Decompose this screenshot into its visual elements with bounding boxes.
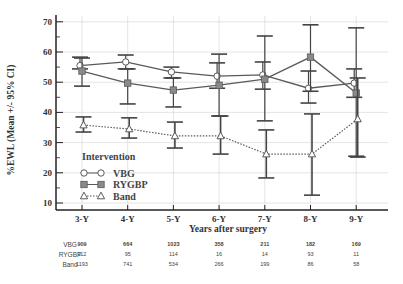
legend-item-rygbp: RYGBP xyxy=(113,179,148,190)
triangle-marker-icon xyxy=(80,192,87,199)
table-cell: 909 xyxy=(67,241,97,247)
x-tick-label: 5-Y xyxy=(166,214,180,224)
table-cell: 664 xyxy=(113,241,143,247)
y-tick-label: 60 xyxy=(43,47,53,57)
ewl-chart: 102030405060703-Y4-Y5-Y6-Y7-Y8-Y9-Y %EWL… xyxy=(0,0,403,240)
table-cell: 534 xyxy=(158,261,188,267)
triangle-marker-icon xyxy=(354,115,361,122)
circle-marker-icon xyxy=(98,170,104,176)
table-cell: 741 xyxy=(113,261,143,267)
y-tick-label: 10 xyxy=(43,198,53,208)
x-tick-label: 8-Y xyxy=(304,214,318,224)
x-tick-label: 7-Y xyxy=(258,214,272,224)
x-axis-title: Years after surgery xyxy=(189,224,267,234)
y-tick-label: 30 xyxy=(43,138,53,148)
square-marker-icon xyxy=(262,76,268,82)
gridlines xyxy=(56,16,388,210)
y-tick-label: 50 xyxy=(43,77,53,87)
table-cell: 86 xyxy=(296,261,326,267)
x-tick-label: 3-Y xyxy=(75,214,89,224)
square-marker-icon xyxy=(125,80,131,86)
axes: 102030405060703-Y4-Y5-Y6-Y7-Y8-Y9-Y xyxy=(43,15,388,224)
square-marker-icon xyxy=(307,54,313,60)
square-marker-icon xyxy=(216,82,222,88)
square-marker-icon xyxy=(79,68,85,74)
square-marker-icon xyxy=(81,181,87,187)
y-tick-label: 40 xyxy=(43,107,53,117)
y-axis-title: %EWL (Mean +/- 95% CI) xyxy=(6,65,17,176)
square-marker-icon xyxy=(170,87,176,93)
circle-marker-icon xyxy=(168,69,174,75)
table-cell: 358 xyxy=(204,241,234,247)
legend-title: Intervention xyxy=(82,151,136,162)
legend-item-vbg: VBG xyxy=(113,168,135,179)
x-tick-label: 4-Y xyxy=(121,214,135,224)
table-cell: 182 xyxy=(296,241,326,247)
legend-item-band: Band xyxy=(113,191,136,202)
x-tick-label: 6-Y xyxy=(212,214,226,224)
table-cell: 266 xyxy=(204,261,234,267)
square-marker-icon xyxy=(98,181,104,187)
table-cell: 11 xyxy=(341,251,371,257)
triangle-marker-icon xyxy=(308,150,315,157)
triangle-marker-icon xyxy=(97,192,104,199)
table-cell: 58 xyxy=(341,261,371,267)
table-cell: 95 xyxy=(113,251,143,257)
table-cell: 1023 xyxy=(158,241,188,247)
circle-marker-icon xyxy=(123,59,129,65)
table-cell: 112 xyxy=(67,251,97,257)
circle-marker-icon xyxy=(81,170,87,176)
y-tick-label: 70 xyxy=(43,17,53,27)
table-cell: 114 xyxy=(158,251,188,257)
triangle-marker-icon xyxy=(171,132,178,139)
triangle-marker-icon xyxy=(80,121,87,128)
table-cell: 14 xyxy=(250,251,280,257)
legend: Intervention VBGRYGBPBand xyxy=(80,151,147,202)
table-cell: 199 xyxy=(250,261,280,267)
table-cell: 93 xyxy=(296,251,326,257)
table-cell: 169 xyxy=(341,241,371,247)
x-tick-label: 9-Y xyxy=(349,214,363,224)
table-cell: 1193 xyxy=(67,261,97,267)
series-vbg xyxy=(72,55,362,103)
table-cell: 211 xyxy=(250,241,280,247)
table-cell: 16 xyxy=(204,251,234,257)
y-tick-label: 20 xyxy=(43,168,53,178)
table-row-band: Band 11937415342661998658 xyxy=(0,261,403,272)
